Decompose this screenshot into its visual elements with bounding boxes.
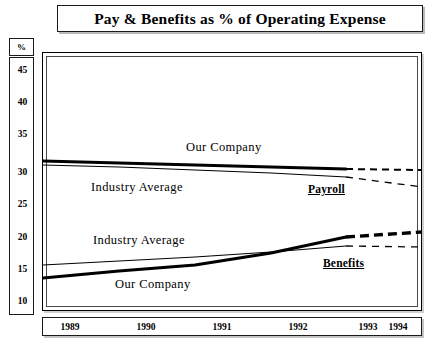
label-benefits-our-company: Our Company <box>115 277 191 292</box>
x-tick-1994: 1994 <box>379 321 417 333</box>
y-axis-unit-label: % <box>17 42 26 52</box>
x-tick-1991: 1991 <box>203 321 241 333</box>
chart-title: Pay & Benefits as % of Operating Expense <box>94 10 386 28</box>
y-tick-35: 35 <box>10 129 35 139</box>
x-tick-1989: 1989 <box>51 321 89 333</box>
line-payroll-our-company-solid <box>43 161 346 169</box>
label-payroll-industry-average: Industry Average <box>91 180 183 195</box>
line-benefits-our-company-projection <box>346 232 422 237</box>
y-axis-unit-box: % <box>9 38 34 56</box>
y-tick-25: 25 <box>10 199 35 209</box>
y-tick-20: 20 <box>10 232 35 242</box>
y-tick-15: 15 <box>10 264 35 274</box>
chart-title-box: Pay & Benefits as % of Operating Expense <box>57 5 423 32</box>
line-payroll-industry-average-projection <box>346 177 422 187</box>
label-payroll-our-company: Our Company <box>186 140 262 155</box>
y-tick-45: 45 <box>10 65 35 75</box>
y-tick-10: 10 <box>10 296 35 306</box>
label-benefits-industry-average: Industry Average <box>93 233 185 248</box>
label-benefits-group: Benefits <box>323 257 364 269</box>
label-payroll-group: Payroll <box>308 183 345 195</box>
y-axis-labels-box: 45 40 35 30 25 20 15 10 <box>9 57 34 315</box>
y-tick-40: 40 <box>10 97 35 107</box>
x-tick-1992: 1992 <box>279 321 317 333</box>
line-payroll-our-company-projection <box>346 169 422 170</box>
x-tick-1990: 1990 <box>127 321 165 333</box>
line-benefits-industry-average-projection <box>346 246 422 247</box>
plot-area: Our Company Industry Average Payroll Ind… <box>42 52 422 311</box>
chart-page: Pay & Benefits as % of Operating Expense… <box>0 0 434 345</box>
x-axis-labels-box: 1989 1990 1991 1992 1993 1994 <box>42 317 422 336</box>
y-tick-30: 30 <box>10 167 35 177</box>
line-benefits-industry-average-solid <box>43 246 346 265</box>
